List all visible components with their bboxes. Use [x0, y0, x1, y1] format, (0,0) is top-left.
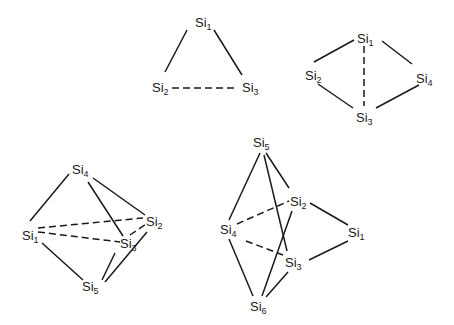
atom-label-si5: Si5	[253, 135, 270, 152]
solid-bond	[88, 182, 123, 236]
solid-bond	[314, 40, 354, 62]
cluster-diagram-2: Si1Si2Si4Si3	[305, 31, 433, 127]
solid-bond	[309, 241, 348, 260]
solid-bond	[214, 30, 242, 75]
atom-label-si2: Si2	[146, 214, 163, 231]
solid-bond	[93, 178, 145, 215]
dashed-bond	[38, 218, 143, 228]
atom-label-si4: Si4	[220, 222, 237, 239]
solid-bond	[318, 84, 353, 108]
dashed-bond	[130, 224, 146, 235]
dashed-bond	[237, 201, 289, 224]
solid-bond	[42, 243, 83, 280]
atom-label-si4: Si4	[72, 162, 89, 179]
solid-bond	[165, 30, 187, 72]
silicon-cluster-diagrams: Si1Si2Si3Si1Si2Si4Si3Si4Si1Si2Si3Si5Si5S…	[0, 0, 454, 325]
solid-bond	[310, 203, 348, 225]
atom-label-si1: Si1	[195, 15, 212, 32]
solid-bond	[102, 253, 115, 280]
atom-label-si3: Si3	[285, 255, 302, 272]
atom-label-si5: Si5	[82, 279, 99, 296]
atom-label-si1: Si1	[357, 31, 374, 48]
atom-label-si3: Si3	[120, 236, 137, 253]
solid-bond	[376, 85, 419, 108]
atom-label-si1: Si1	[348, 225, 365, 242]
atom-label-si3: Si3	[356, 110, 373, 127]
atom-label-si4: Si4	[416, 71, 433, 88]
solid-bond	[229, 239, 253, 296]
atom-label-si2: Si2	[290, 194, 307, 211]
solid-bond	[382, 41, 412, 64]
atom-label-si3: Si3	[242, 80, 259, 97]
cluster-diagram-3: Si4Si1Si2Si3Si5	[22, 162, 163, 296]
solid-bond	[229, 153, 260, 220]
diagram-canvas: Si1Si2Si3Si1Si2Si4Si3Si4Si1Si2Si3Si5Si5S…	[0, 0, 454, 325]
cluster-diagram-1: Si1Si2Si3	[152, 15, 259, 97]
dashed-bond	[246, 241, 283, 255]
atom-label-si2: Si2	[305, 68, 322, 85]
dashed-bond	[38, 232, 120, 242]
atom-label-si6: Si6	[250, 299, 267, 316]
atom-label-si1: Si1	[22, 228, 39, 245]
cluster-diagram-4: Si5Si2Si4Si1Si3Si6	[220, 135, 365, 316]
solid-bond	[30, 174, 69, 221]
solid-bond	[266, 153, 289, 188]
atom-label-si2: Si2	[152, 80, 169, 97]
